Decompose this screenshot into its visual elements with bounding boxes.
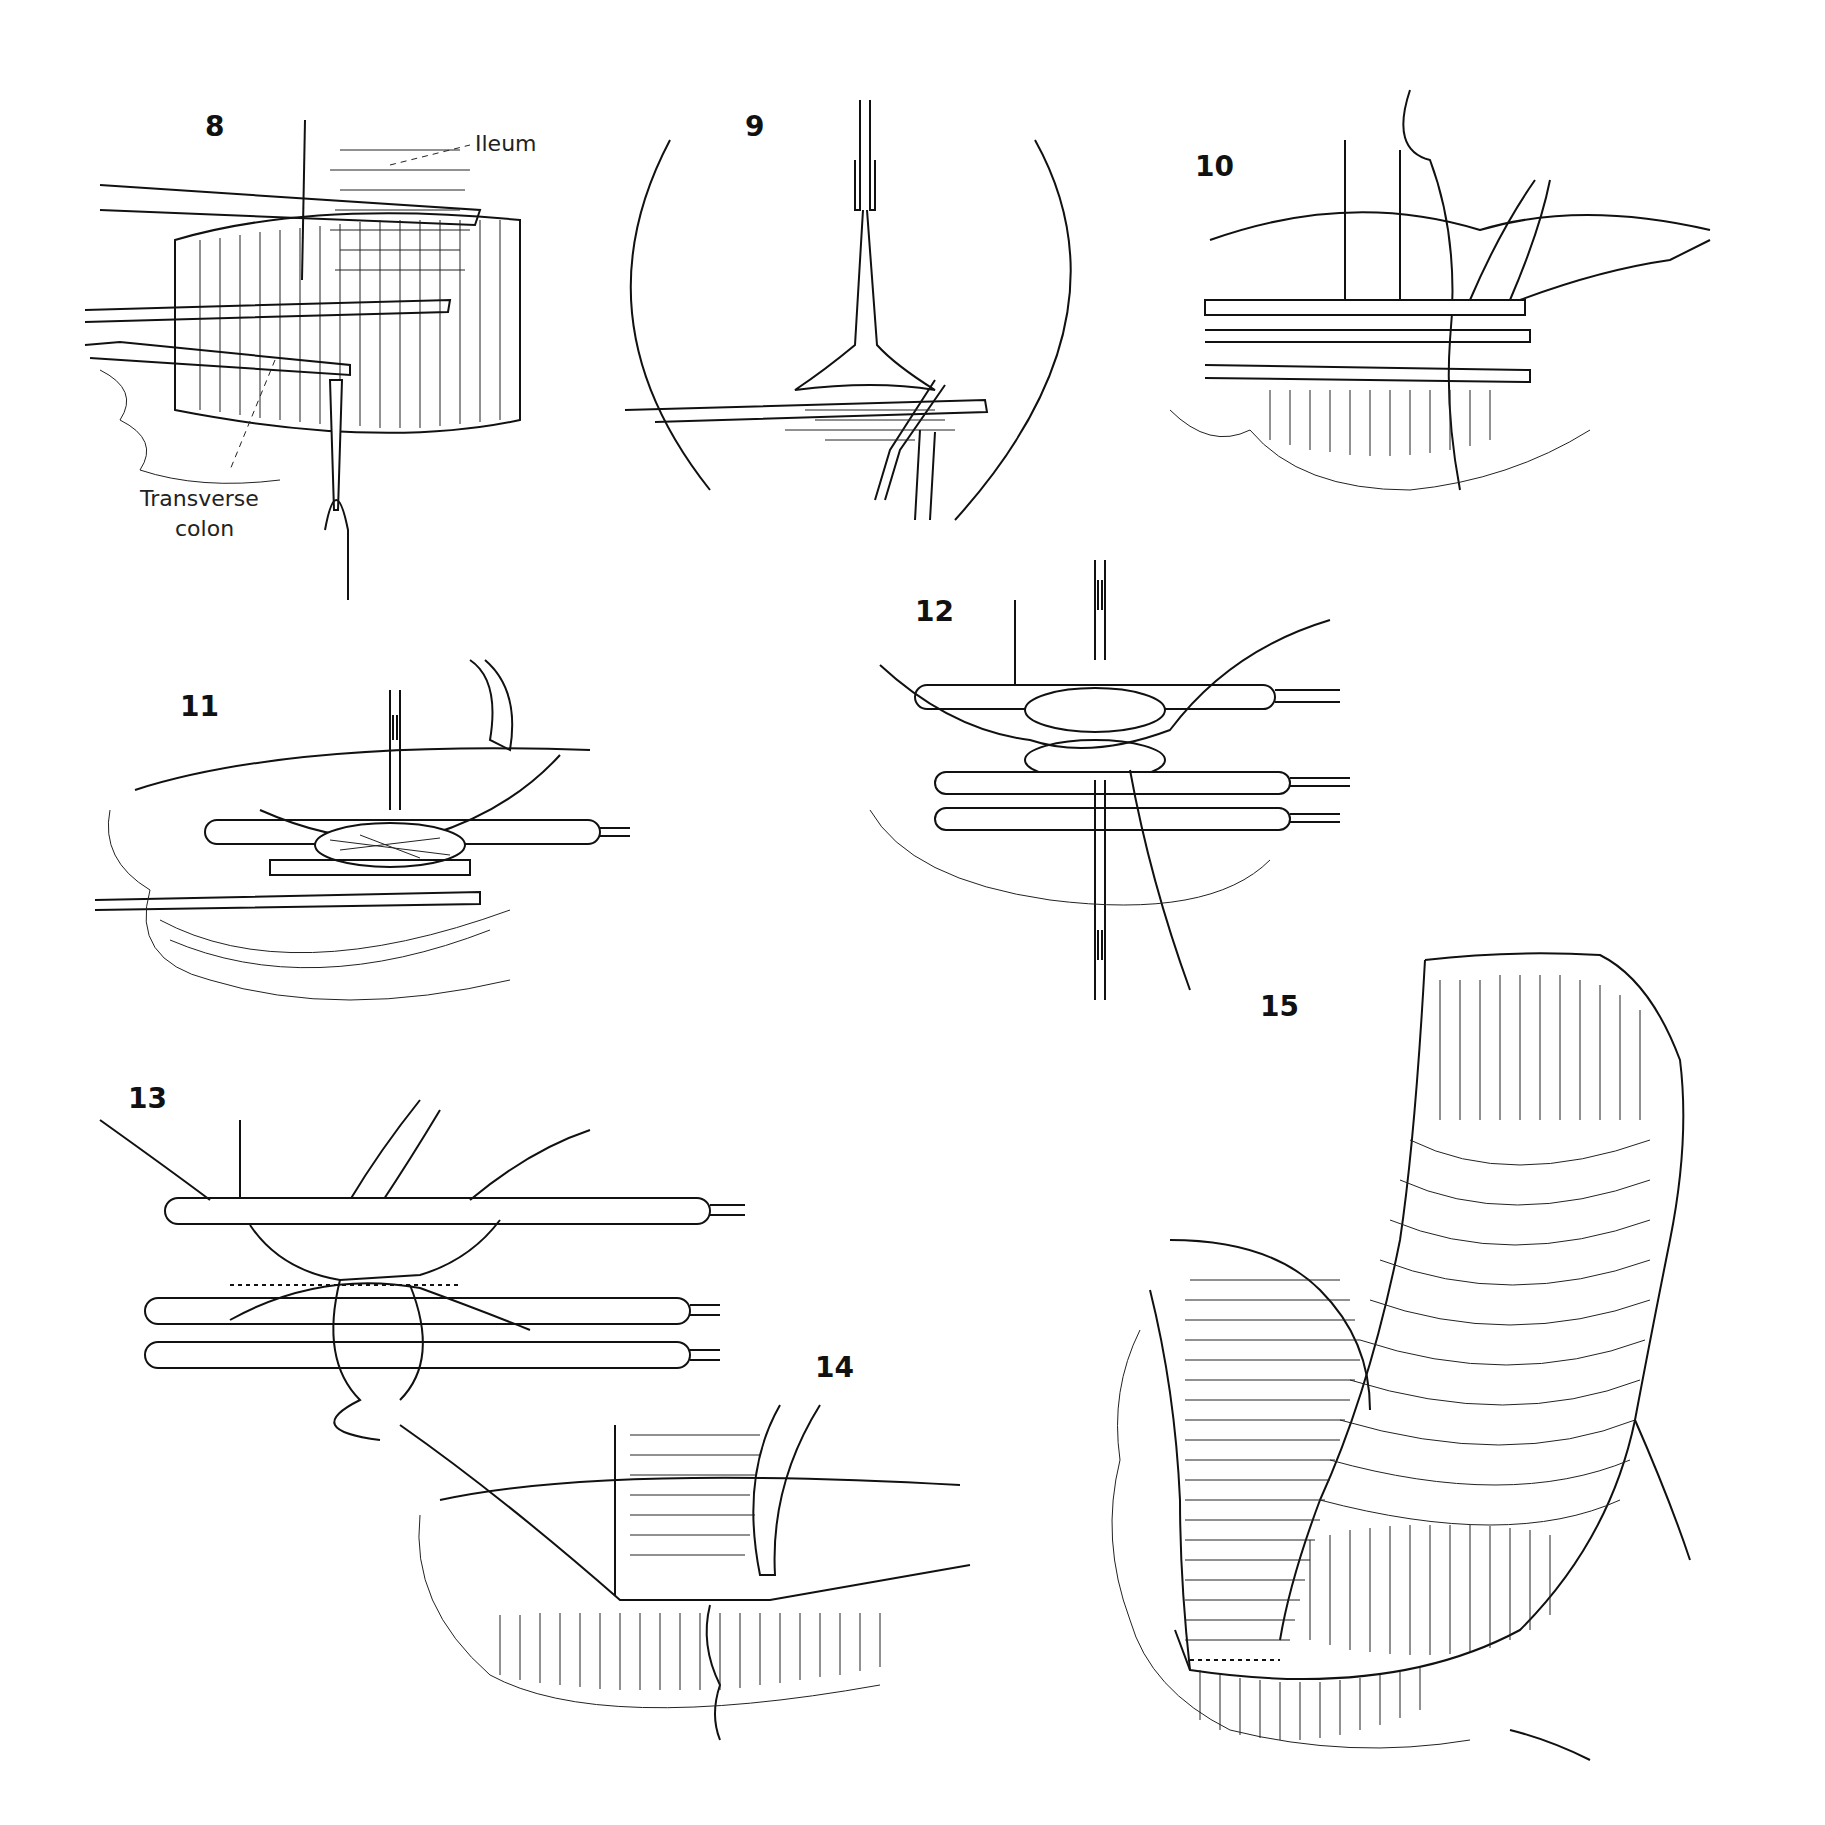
label-ileum: Ileum <box>475 130 537 158</box>
panel-14: 14 <box>400 1345 1000 1745</box>
illustration-ileum-colon-clamp <box>80 90 620 610</box>
illustration-completed-anastomosis-row <box>400 1345 1000 1745</box>
panel-11: 11 <box>90 660 750 1030</box>
panel-15: 15 <box>1090 940 1790 1760</box>
label-colon: colon <box>175 515 234 543</box>
panel-10: 10 <box>1150 90 1730 510</box>
illustration-clamps-suture <box>1150 90 1730 510</box>
panel-9: 9 <box>615 100 1095 530</box>
panel-8: 8 Ileum Transverse colon <box>80 90 620 610</box>
illustration-rubber-shod-clamps-opened <box>90 660 750 1030</box>
label-transverse: Transverse <box>140 485 259 513</box>
illustration-final-ileocolic-anastomosis <box>1090 940 1790 1760</box>
illustration-circular-view-forceps <box>615 100 1095 530</box>
